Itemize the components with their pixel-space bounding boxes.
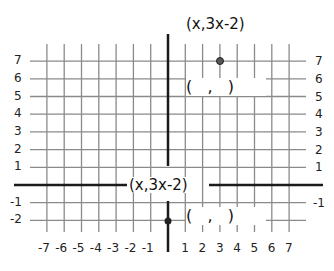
x-tick-label: -5 [73, 242, 85, 254]
y-tick-label-right: 5 [315, 91, 323, 103]
x-tick-label: 5 [251, 242, 259, 254]
x-tick-label: -4 [90, 242, 102, 254]
x-tick-label: 2 [199, 242, 207, 254]
top-point-marker [217, 58, 224, 65]
x-tick-label: 7 [285, 242, 293, 254]
x-tick-label: 6 [268, 242, 276, 254]
y-tick-label-right: 2 [315, 144, 323, 156]
y-tick-label-left: 6 [14, 72, 22, 84]
y-tick-label-left: 1 [14, 160, 22, 172]
x-tick-label: -7 [38, 242, 50, 254]
axis-point-label: (x,3x-2) [129, 177, 188, 193]
bottom-answer-blank[interactable]: ( , ) [186, 207, 266, 225]
y-tick-label-left: 7 [14, 54, 22, 66]
y-tick-label-left: -2 [10, 213, 22, 225]
y-tick-label-right: 1 [315, 161, 323, 173]
y-tick-label-right: 6 [315, 73, 323, 85]
coordinate-grid [0, 0, 334, 271]
y-tick-label-right: 4 [315, 108, 323, 120]
y-tick-label-right: 7 [315, 55, 323, 67]
x-tick-label: 3 [216, 242, 224, 254]
y-tick-label-right: 3 [315, 126, 323, 138]
x-tick-label: -2 [124, 242, 136, 254]
top-point-label: (x,3x-2) [186, 16, 245, 32]
x-tick-label: -6 [55, 242, 67, 254]
y-tick-label-left: 4 [14, 107, 22, 119]
top-answer-blank[interactable]: ( , ) [186, 78, 266, 96]
y-tick-label-left: 3 [14, 125, 22, 137]
y-tick-label-right: -1 [313, 197, 325, 209]
x-tick-label: 1 [181, 242, 189, 254]
x-tick-label: 4 [233, 242, 241, 254]
x-tick-label: -1 [142, 242, 154, 254]
bottom-point-marker [165, 218, 172, 225]
y-tick-label-left: 2 [14, 143, 22, 155]
y-tick-label-left: -1 [10, 196, 22, 208]
y-tick-label-left: 5 [14, 90, 22, 102]
x-tick-label: -3 [107, 242, 119, 254]
